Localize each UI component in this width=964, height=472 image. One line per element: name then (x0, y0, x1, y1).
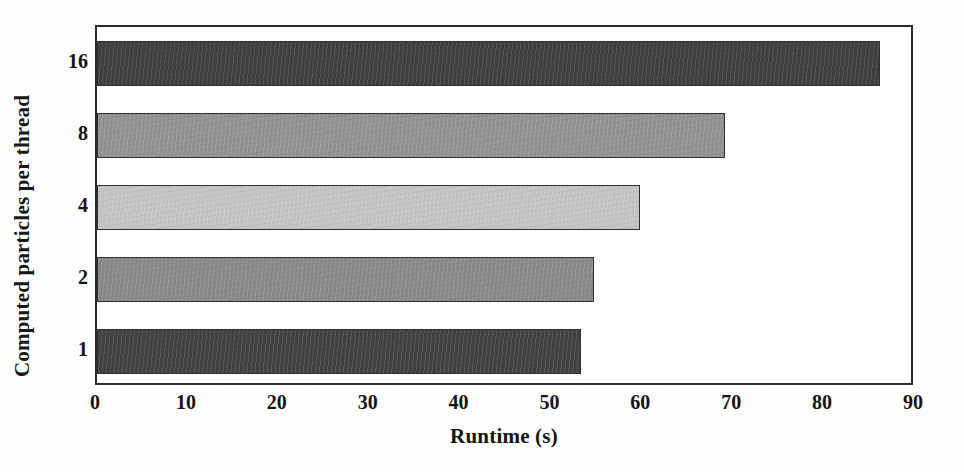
x-tick-label-group: 0102030405060708090 (0, 392, 964, 420)
y-tick-label-8: 8 (48, 123, 88, 143)
bar-band (97, 27, 911, 99)
bar-4[interactable] (97, 185, 640, 230)
x-tick-label-50: 50 (539, 392, 559, 412)
x-tick-label-40: 40 (449, 392, 469, 412)
y-tick-label-group: 168421 (38, 25, 88, 385)
bar-1[interactable] (97, 329, 581, 374)
x-tick-label-20: 20 (267, 392, 287, 412)
y-tick-label-4: 4 (48, 195, 88, 215)
x-tick-label-0: 0 (90, 392, 100, 412)
plot-area (95, 25, 913, 385)
y-tick-label-2: 2 (48, 267, 88, 287)
bar-16[interactable] (97, 41, 880, 86)
bar-band (97, 315, 911, 383)
bar-2[interactable] (97, 257, 594, 302)
y-tick-label-16: 16 (48, 51, 88, 71)
x-axis-title: Runtime (s) (95, 424, 913, 449)
x-tick-label-60: 60 (630, 392, 650, 412)
bar-group (97, 27, 911, 383)
x-tick-label-90: 90 (903, 392, 923, 412)
bar-band (97, 243, 911, 315)
x-tick-label-80: 80 (812, 392, 832, 412)
x-tick-label-70: 70 (721, 392, 741, 412)
x-tick-label-10: 10 (176, 392, 196, 412)
bar-band (97, 171, 911, 243)
x-tick-label-30: 30 (358, 392, 378, 412)
chart-figure: Computed particles per thread 168421 010… (0, 0, 964, 472)
y-tick-label-1: 1 (48, 339, 88, 359)
bar-8[interactable] (97, 113, 725, 158)
bar-band (97, 99, 911, 171)
